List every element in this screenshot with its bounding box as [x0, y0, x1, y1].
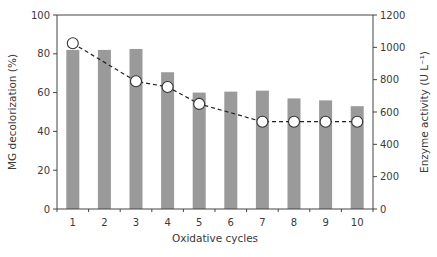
- x-tick-label: 7: [259, 217, 265, 228]
- data-point-marker: [352, 116, 363, 127]
- y2-tick-label: 1200: [380, 10, 405, 21]
- y-tick-label: 100: [31, 10, 50, 21]
- y2-tick-label: 1000: [380, 42, 405, 53]
- y-tick-label: 80: [37, 48, 50, 59]
- y-axis-title: MG decolorization (%): [6, 54, 18, 170]
- data-point-marker: [257, 116, 268, 127]
- x-axis-title: Oxidative cycles: [172, 232, 258, 244]
- data-point-marker: [289, 116, 300, 127]
- bar: [288, 98, 301, 209]
- data-point-marker: [194, 98, 205, 109]
- y2-tick-label: 800: [380, 74, 399, 85]
- y-tick-label: 20: [37, 165, 50, 176]
- data-point-marker: [162, 81, 173, 92]
- x-tick-label: 6: [228, 217, 234, 228]
- y-tick-label: 60: [37, 87, 50, 98]
- y-tick-label: 0: [44, 204, 50, 215]
- x-tick-label: 4: [164, 217, 170, 228]
- bar: [256, 91, 269, 209]
- bar: [130, 49, 143, 209]
- y2-tick-label: 400: [380, 139, 399, 150]
- x-tick-label: 8: [291, 217, 297, 228]
- y-tick-label: 40: [37, 126, 50, 137]
- y2-tick-label: 0: [380, 204, 386, 215]
- enzyme-activity-line: [73, 43, 357, 121]
- y2-tick-label: 600: [380, 107, 399, 118]
- bar: [193, 93, 206, 209]
- x-tick-label: 5: [196, 217, 202, 228]
- bar: [224, 92, 237, 209]
- data-point-marker: [131, 76, 142, 87]
- x-tick-label: 1: [70, 217, 76, 228]
- bar: [66, 50, 79, 209]
- chart: 0204060801000200400600800100012001234567…: [0, 0, 437, 257]
- x-tick-label: 10: [351, 217, 364, 228]
- y2-axis-title: Enzyme activity (U L⁻¹): [418, 51, 430, 173]
- y2-tick-label: 200: [380, 171, 399, 182]
- x-tick-label: 9: [322, 217, 328, 228]
- x-tick-label: 2: [101, 217, 107, 228]
- bar: [98, 50, 111, 209]
- line-series: [67, 38, 362, 127]
- bar-series: [66, 49, 363, 209]
- data-point-marker: [320, 116, 331, 127]
- data-point-marker: [67, 38, 78, 49]
- x-tick-label: 3: [133, 217, 139, 228]
